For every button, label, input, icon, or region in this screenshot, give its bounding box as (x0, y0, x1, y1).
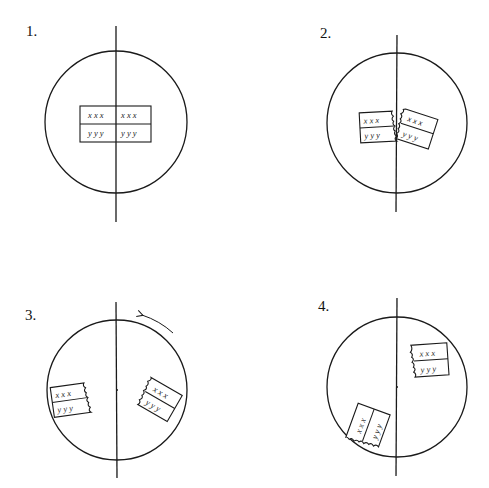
panel-4: 4. x x x y y y x x x y y y (318, 298, 467, 476)
chromosome-x-right: x x x (120, 110, 137, 120)
chromosome-fragment-right: x x x y y y (135, 377, 182, 421)
svg-text:x x x: x x x (362, 115, 379, 126)
chromosome-y-left: y y y (87, 128, 104, 138)
chromosome-y-right: y y y (120, 128, 137, 138)
svg-text:y y y: y y y (419, 364, 436, 375)
chromosome-fragment-upper: x x x y y y (410, 343, 449, 378)
center-dot (396, 386, 398, 388)
panel-label: 2. (320, 25, 331, 41)
chromosome-fragment-right: x x x y y y (393, 108, 438, 149)
spindle-axis (396, 35, 397, 212)
chromosome-fragment-left: x x x y y y (359, 111, 397, 143)
chromosome-fragment-left: x x x y y y (50, 382, 91, 417)
panel-label: 1. (26, 23, 37, 39)
center-dot (116, 389, 118, 391)
panel-3: 3. x x x y y y x x x y y y (25, 302, 187, 478)
chromosome-fragment-lower: x x x y y y (346, 403, 391, 449)
svg-text:x x x: x x x (418, 348, 435, 359)
panel-label: 3. (25, 307, 36, 323)
figure-canvas: 1. x x x x x x y y y y y y 2. x x x y y … (0, 0, 489, 488)
panel-2: 2. x x x y y y x x x y y y (320, 25, 467, 212)
panel-label: 4. (318, 298, 329, 314)
rotation-arrow-icon (142, 315, 173, 333)
panel-1: 1. x x x x x x y y y y y y (26, 23, 187, 222)
chromosome-x-left: x x x (87, 110, 104, 120)
svg-text:y y y: y y y (363, 130, 380, 141)
